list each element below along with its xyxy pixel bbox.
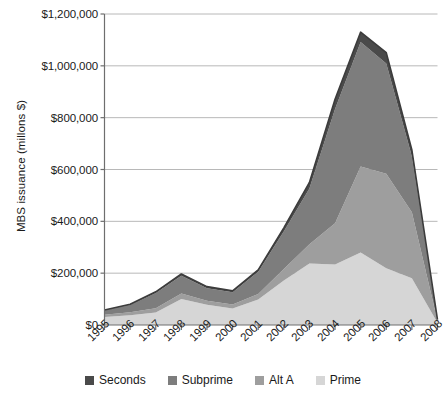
mbs-issuance-stacked-area-chart: MBS issuance (millons $) $0$200,000$400,… xyxy=(0,0,446,399)
x-tick-label: 1999 xyxy=(187,317,213,343)
x-tick-label: 2002 xyxy=(264,317,290,343)
legend-label: Seconds xyxy=(99,374,146,386)
x-tick-label: 2005 xyxy=(341,317,367,343)
legend-swatch-icon xyxy=(168,376,177,385)
x-tick-label: 1996 xyxy=(110,317,136,343)
x-tick-label: 2000 xyxy=(213,317,239,343)
x-tick-label: 2001 xyxy=(238,317,264,343)
x-axis-tick-labels: 1995199619971998199920002001200220032004… xyxy=(0,0,446,399)
x-tick-label: 1997 xyxy=(136,317,162,343)
x-tick-label: 2008 xyxy=(418,317,444,343)
x-tick-label: 2003 xyxy=(289,317,315,343)
legend-item-prime[interactable]: Prime xyxy=(316,374,361,386)
legend-item-seconds[interactable]: Seconds xyxy=(85,374,146,386)
legend-label: Prime xyxy=(330,374,361,386)
legend-item-subprime[interactable]: Subprime xyxy=(168,374,233,386)
legend-swatch-icon xyxy=(255,376,264,385)
legend-swatch-icon xyxy=(85,376,94,385)
x-tick-label: 1995 xyxy=(85,317,111,343)
x-tick-label: 2007 xyxy=(392,317,418,343)
legend-swatch-icon xyxy=(316,376,325,385)
legend-label: Subprime xyxy=(182,374,233,386)
legend-label: Alt A xyxy=(269,374,294,386)
x-tick-label: 1998 xyxy=(161,317,187,343)
x-tick-label: 2006 xyxy=(366,317,392,343)
chart-legend: SecondsSubprimeAlt APrime xyxy=(0,374,446,386)
x-tick-label: 2004 xyxy=(315,317,341,343)
legend-item-alt-a[interactable]: Alt A xyxy=(255,374,294,386)
